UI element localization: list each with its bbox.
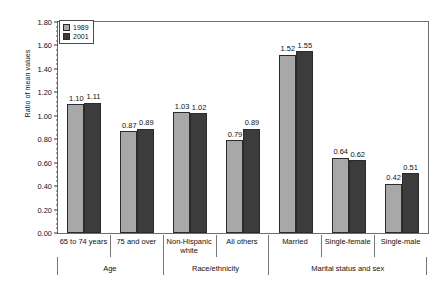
bar-group: 1.031.02 [173,22,207,233]
bar-1989 [279,55,296,233]
bar-series-container: 1.101.110.870.891.031.020.790.891.521.55… [58,22,428,233]
legend-label-2001: 2001 [73,32,89,41]
x-category-line: Married [268,237,321,246]
x-category-label: Single-female [321,237,374,246]
bar-value-label: 1.55 [298,42,313,50]
bar-chart: Ratio of mean values 0.000.200.400.600.8… [0,0,437,294]
bar-value-label: 0.79 [228,131,243,139]
x-category-label: Single-male [374,237,427,246]
chart-legend: 1989 2001 [59,20,94,44]
legend-swatch-2001 [63,33,70,40]
x-category-label: 75 and over [110,237,163,246]
bar-2001 [349,160,366,233]
category-separator [321,235,322,257]
y-axis-title: Ratio of mean values [24,19,31,149]
bar-value-label: 1.10 [69,95,84,103]
x-category-line: 65 to 74 years [57,237,110,246]
bar-value-label: 1.02 [192,104,207,112]
bar-2001 [243,129,260,233]
x-category-line: All others [216,237,269,246]
bar-value-label: 0.89 [139,119,154,127]
bar-value-label: 0.89 [245,119,260,127]
x-category-line: 75 and over [110,237,163,246]
bar-value-label: 0.62 [350,151,365,159]
bar-group: 0.640.62 [332,22,366,233]
bar-group: 0.870.89 [120,22,154,233]
bar-2001 [84,103,101,233]
legend-swatch-1989 [63,24,70,31]
bar-2001 [296,51,313,233]
group-separator [268,257,269,275]
bar-value-label: 1.52 [281,45,296,53]
x-group-label: Age [57,264,163,273]
bar-2001 [137,129,154,233]
x-category-label: Non-Hispanicwhite [163,237,216,255]
legend-label-1989: 1989 [73,23,89,32]
bar-group: 1.101.11 [67,22,101,233]
x-axis-labels: 65 to 74 years75 and overNon-Hispanicwhi… [57,235,429,294]
category-separator [374,235,375,257]
bar-2001 [190,113,207,233]
category-separator [216,235,217,257]
bar-group: 1.521.55 [279,22,313,233]
category-separator [163,235,164,257]
bar-value-label: 0.64 [333,148,348,156]
bar-value-label: 0.42 [386,174,401,182]
bar-group: 0.420.51 [385,22,419,233]
x-category-label: Married [268,237,321,246]
bar-group: 0.790.89 [226,22,260,233]
bar-1989 [226,140,243,233]
bar-1989 [385,184,402,233]
category-separator [268,235,269,257]
x-group-label: Race/ethnicity [163,264,269,273]
bar-value-label: 0.51 [403,164,418,172]
group-separator [57,257,58,275]
x-category-line: white [163,246,216,255]
bar-1989 [173,112,190,233]
bar-1989 [120,131,137,233]
x-category-line: Single-female [321,237,374,246]
bar-1989 [67,104,84,233]
x-category-label: 65 to 74 years [57,237,110,246]
bar-value-label: 1.03 [175,103,190,111]
legend-item-2001: 2001 [63,32,89,41]
bar-value-label: 1.11 [86,93,100,101]
bar-value-label: 0.87 [122,122,137,130]
category-separator [110,235,111,257]
x-group-label: Marital status and sex [268,264,427,273]
bar-1989 [332,158,349,233]
group-separator [426,257,427,275]
plot-area: 0.000.200.400.600.801.001.201.401.601.80… [57,21,429,234]
x-category-line: Single-male [374,237,427,246]
x-category-label: All others [216,237,269,246]
x-category-line: Non-Hispanic [163,237,216,246]
group-separator [163,257,164,275]
legend-item-1989: 1989 [63,23,89,32]
bar-2001 [402,173,419,233]
